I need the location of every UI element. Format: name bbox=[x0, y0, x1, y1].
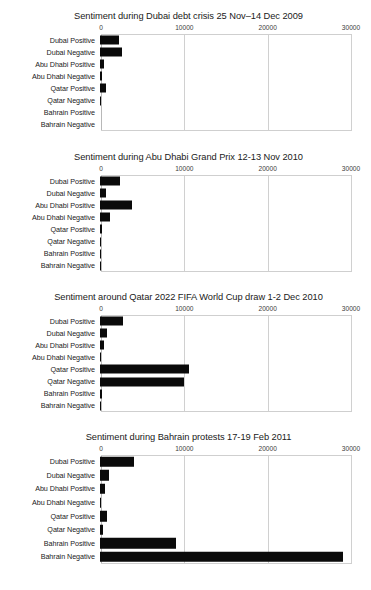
bar bbox=[100, 72, 102, 81]
bar bbox=[100, 329, 107, 338]
category-label: Qatar Negative bbox=[0, 525, 100, 534]
x-axis-tick-label: 20000 bbox=[258, 24, 276, 31]
category-label: Dubai Positive bbox=[0, 457, 100, 466]
bar bbox=[100, 201, 132, 210]
bar bbox=[100, 552, 343, 563]
category-label: Bahrain Negative bbox=[0, 552, 100, 561]
chart-title: Sentiment during Bahrain protests 17-19 … bbox=[0, 431, 371, 443]
bar-row: Dubai Positive bbox=[0, 34, 371, 46]
bar-rows: Dubai PositiveDubai NegativeAbu Dhabi Po… bbox=[0, 315, 371, 412]
bar-row: Dubai Negative bbox=[0, 327, 371, 339]
bar-track bbox=[100, 175, 371, 187]
bar-track bbox=[100, 248, 371, 260]
bar-track bbox=[100, 550, 371, 564]
bar-track bbox=[100, 58, 371, 70]
bar bbox=[100, 511, 107, 522]
bar-track bbox=[100, 339, 371, 351]
figure-sheet: Sentiment during Dubai debt crisis 25 No… bbox=[0, 0, 371, 590]
bar-track bbox=[100, 375, 371, 387]
x-axis-tick-label: 20000 bbox=[258, 445, 276, 452]
bar bbox=[100, 341, 104, 350]
bar-track bbox=[100, 537, 371, 551]
bar bbox=[100, 261, 101, 270]
x-axis-tick-label: 0 bbox=[99, 165, 103, 172]
bar-row: Bahrain Positive bbox=[0, 537, 371, 551]
bar-track bbox=[100, 235, 371, 247]
x-axis-tick-label: 30000 bbox=[342, 24, 360, 31]
bar-track bbox=[100, 363, 371, 375]
bar-track bbox=[100, 199, 371, 211]
bar-track bbox=[100, 509, 371, 523]
bar bbox=[100, 470, 109, 481]
bar bbox=[100, 317, 123, 326]
bar-row: Dubai Negative bbox=[0, 46, 371, 58]
bar-track bbox=[100, 94, 371, 106]
category-label: Bahrain Positive bbox=[0, 249, 100, 258]
category-label: Dubai Positive bbox=[0, 177, 100, 186]
bar-track bbox=[100, 327, 371, 339]
category-label: Abu Dhabi Negative bbox=[0, 213, 100, 222]
bar-row: Dubai Negative bbox=[0, 187, 371, 199]
category-label: Qatar Positive bbox=[0, 225, 100, 234]
bar-track bbox=[100, 82, 371, 94]
bar-row: Qatar Negative bbox=[0, 94, 371, 106]
category-label: Abu Dhabi Positive bbox=[0, 484, 100, 493]
bar-row: Qatar Negative bbox=[0, 235, 371, 247]
category-label: Bahrain Negative bbox=[0, 120, 100, 129]
bar-chart-panel: Sentiment during Abu Dhabi Grand Prix 12… bbox=[0, 151, 371, 274]
x-axis-tick-row: 0100002000030000 bbox=[0, 22, 371, 34]
bar bbox=[100, 60, 104, 69]
bar-track bbox=[100, 223, 371, 235]
x-axis-tick-label: 20000 bbox=[258, 165, 276, 172]
bar-track bbox=[100, 482, 371, 496]
category-label: Abu Dhabi Negative bbox=[0, 72, 100, 81]
bar bbox=[100, 249, 101, 258]
bar-row: Abu Dhabi Negative bbox=[0, 70, 371, 82]
bar-row: Qatar Positive bbox=[0, 223, 371, 235]
category-label: Dubai Negative bbox=[0, 471, 100, 480]
bar-row: Bahrain Negative bbox=[0, 400, 371, 412]
bar bbox=[100, 84, 106, 93]
x-axis-tick-row: 0100002000030000 bbox=[0, 303, 371, 315]
bar bbox=[100, 48, 122, 57]
bar-row: Qatar Positive bbox=[0, 82, 371, 94]
category-label: Abu Dhabi Negative bbox=[0, 498, 100, 507]
category-label: Abu Dhabi Positive bbox=[0, 341, 100, 350]
bar bbox=[100, 457, 134, 468]
bar-track bbox=[100, 351, 371, 363]
category-label: Dubai Negative bbox=[0, 329, 100, 338]
category-label: Qatar Positive bbox=[0, 512, 100, 521]
bar-row: Qatar Positive bbox=[0, 509, 371, 523]
category-label: Dubai Negative bbox=[0, 189, 100, 198]
x-axis-tick-label: 20000 bbox=[258, 305, 276, 312]
x-axis-tick-row: 0100002000030000 bbox=[0, 443, 371, 455]
bar bbox=[100, 353, 101, 362]
plot-area: Dubai PositiveDubai NegativeAbu Dhabi Po… bbox=[0, 455, 371, 564]
bar-track bbox=[100, 469, 371, 483]
chart-title: Sentiment during Abu Dhabi Grand Prix 12… bbox=[0, 151, 371, 163]
bar-row: Abu Dhabi Positive bbox=[0, 339, 371, 351]
category-label: Bahrain Negative bbox=[0, 401, 100, 410]
bar-track bbox=[100, 523, 371, 537]
plot-area: Dubai PositiveDubai NegativeAbu Dhabi Po… bbox=[0, 34, 371, 131]
bar-row: Bahrain Positive bbox=[0, 107, 371, 119]
bar-track bbox=[100, 34, 371, 46]
bar-row: Dubai Negative bbox=[0, 469, 371, 483]
chart-title: Sentiment around Qatar 2022 FIFA World C… bbox=[0, 291, 371, 303]
bar-row: Abu Dhabi Positive bbox=[0, 482, 371, 496]
category-label: Abu Dhabi Negative bbox=[0, 353, 100, 362]
x-axis-tick-label: 30000 bbox=[342, 305, 360, 312]
category-label: Dubai Positive bbox=[0, 36, 100, 45]
bar-rows: Dubai PositiveDubai NegativeAbu Dhabi Po… bbox=[0, 34, 371, 131]
bar-track bbox=[100, 187, 371, 199]
x-axis-tick-label: 10000 bbox=[175, 305, 193, 312]
bar-row: Bahrain Positive bbox=[0, 388, 371, 400]
category-label: Abu Dhabi Positive bbox=[0, 60, 100, 69]
bar bbox=[100, 237, 101, 246]
bar-row: Abu Dhabi Negative bbox=[0, 211, 371, 223]
bar-row: Dubai Positive bbox=[0, 175, 371, 187]
bar bbox=[100, 497, 101, 508]
x-axis-tick-label: 0 bbox=[99, 445, 103, 452]
bar-track bbox=[100, 388, 371, 400]
bar-track bbox=[100, 46, 371, 58]
